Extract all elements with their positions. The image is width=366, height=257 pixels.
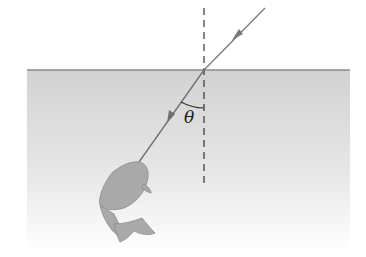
water-body: [27, 70, 350, 252]
incident-ray: [204, 8, 265, 70]
incident-arrow-icon: [232, 29, 243, 40]
refraction-diagram: [0, 0, 366, 257]
angle-theta-label: θ: [184, 107, 194, 127]
